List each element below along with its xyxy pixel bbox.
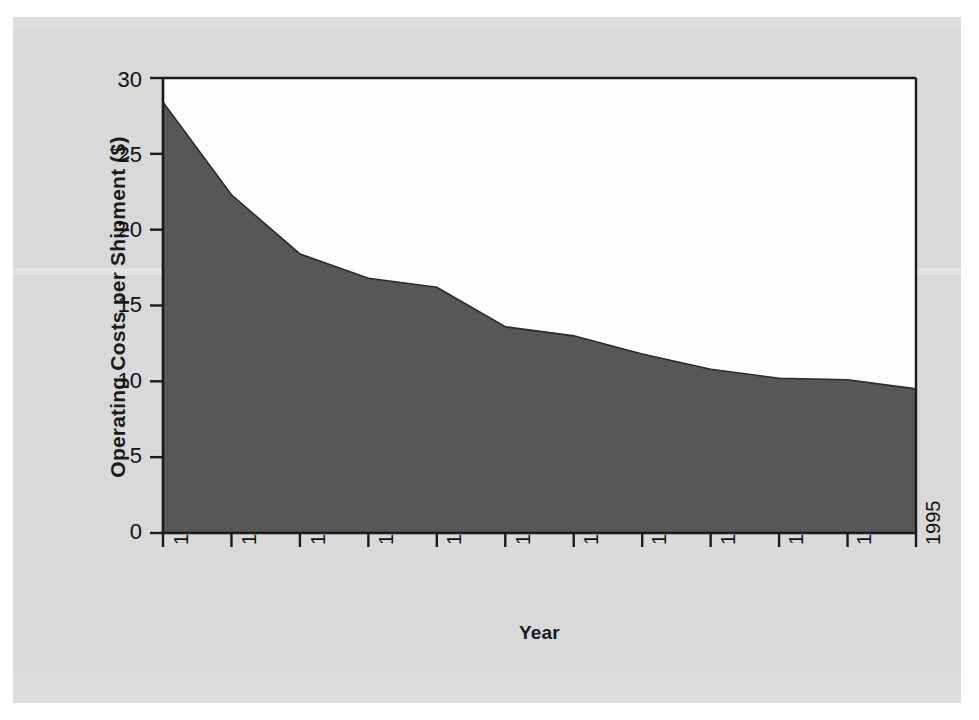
scanned-figure-canvas: Operating Costs per Shipment ($) Year 30…	[0, 0, 979, 720]
plot-area-svg	[0, 0, 979, 720]
area-chart-figure: Operating Costs per Shipment ($) Year 30…	[0, 0, 979, 720]
y-axis-ticks	[150, 78, 163, 533]
x-axis-ticks	[163, 533, 916, 547]
